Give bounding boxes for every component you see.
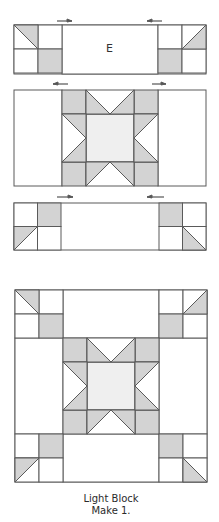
composite-bottom-center [63, 434, 159, 482]
patch-square [15, 434, 39, 458]
composite-corner-top-left [15, 290, 63, 338]
patch-square [182, 49, 206, 73]
arrow-head-right [161, 82, 166, 85]
unit-label-e: E [106, 42, 113, 55]
patch-square [38, 227, 62, 251]
quilt-diagram [0, 0, 219, 522]
composite-side-left [15, 338, 63, 434]
press-arrow-right [57, 19, 72, 22]
star-center-square [86, 114, 134, 162]
patch-square [159, 290, 183, 314]
composite-side-right [159, 338, 207, 434]
star-corner-square [134, 90, 158, 114]
corner-unit-bottom-left [14, 203, 61, 250]
patch-square [158, 49, 182, 73]
star-corner-square [63, 338, 87, 362]
patch-square [38, 203, 62, 227]
composite-corner-bottom-right [159, 434, 207, 482]
press-arrow-left [53, 82, 68, 85]
corner-unit-bottom-right [159, 203, 206, 250]
composite-star-block [63, 338, 159, 434]
composite-corner-top-right [159, 290, 207, 338]
patch-square [39, 290, 63, 314]
patch-square [159, 434, 183, 458]
patch-square [14, 203, 38, 227]
patch-square [159, 314, 183, 338]
patch-square [159, 227, 183, 251]
sawtooth-star-block [62, 90, 158, 186]
patch-square [15, 314, 39, 338]
arrow-head-right [67, 19, 72, 22]
press-arrow-left [147, 195, 164, 198]
patch-square [39, 434, 63, 458]
arrow-head-left [53, 82, 58, 85]
arrow-head-left [147, 19, 152, 22]
patch-square [39, 314, 63, 338]
press-arrow-right [57, 195, 73, 198]
patch-square [159, 203, 183, 227]
patch-square [183, 314, 207, 338]
star-corner-square [62, 90, 86, 114]
patch-square [158, 25, 182, 49]
caption-quantity: Make 1. [0, 505, 219, 517]
side-rectangle-left [14, 90, 62, 186]
star-corner-square [62, 162, 86, 186]
arrow-head-right [68, 195, 73, 198]
press-arrow-left [147, 19, 162, 22]
patch-square [183, 434, 207, 458]
caption-title: Light Block [0, 493, 219, 505]
patch-square [14, 49, 38, 73]
patch-square [183, 203, 207, 227]
star-corner-square [135, 338, 159, 362]
press-arrow-right [152, 82, 166, 85]
arrow-head-left [147, 195, 152, 198]
star-corner-square [135, 410, 159, 434]
corner-unit-top-right [158, 25, 206, 73]
corner-unit-top-left [14, 25, 62, 73]
composite-corner-bottom-left [15, 434, 63, 482]
side-rectangle-right [158, 90, 206, 186]
patch-square [38, 25, 62, 49]
composite-top-center [63, 290, 159, 338]
patch-square [38, 49, 62, 73]
star-corner-square [63, 410, 87, 434]
patch-square [159, 458, 183, 482]
star-center-square [87, 362, 135, 410]
star-corner-square [134, 162, 158, 186]
patch-square [39, 458, 63, 482]
